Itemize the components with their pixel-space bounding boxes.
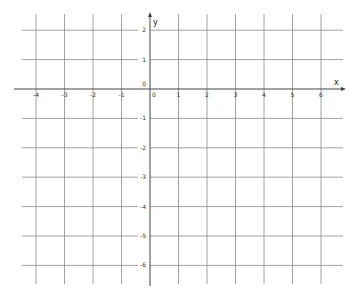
x-tick-label: 6 xyxy=(319,91,323,98)
x-tick-label: 1 xyxy=(177,91,181,98)
x-tick-labels: -4-3-2-10123456 xyxy=(33,91,323,98)
x-axis-label: x xyxy=(334,78,339,87)
x-tick-label: -4 xyxy=(33,91,39,98)
y-tick-labels: 210-1-2-3-4-5-6 xyxy=(140,26,146,268)
y-tick-label: -4 xyxy=(140,203,146,210)
y-tick-label: 2 xyxy=(142,26,146,33)
y-axis-label: y xyxy=(153,18,158,27)
x-axis-arrow-icon xyxy=(341,87,346,91)
y-axis-arrow-icon xyxy=(148,12,152,17)
y-tick-label: -2 xyxy=(140,144,146,151)
x-tick-label: 3 xyxy=(234,91,238,98)
coordinate-grid: x y -4-3-2-10123456 210-1-2-3-4-5-6 xyxy=(0,0,359,300)
x-tick-label: 5 xyxy=(291,91,295,98)
x-tick-label: 4 xyxy=(262,91,266,98)
y-tick-label: -5 xyxy=(140,232,146,239)
y-tick-label: -6 xyxy=(140,261,146,268)
x-tick-label: 2 xyxy=(205,91,209,98)
y-tick-label: -3 xyxy=(140,173,146,180)
y-tick-label: -1 xyxy=(140,114,146,121)
vertical-grid-lines xyxy=(36,14,321,284)
y-tick-label: 0 xyxy=(142,80,146,87)
x-tick-label: -2 xyxy=(90,91,96,98)
y-tick-label: 1 xyxy=(142,56,146,63)
x-tick-label: 0 xyxy=(152,91,156,98)
x-tick-label: -3 xyxy=(62,91,68,98)
horizontal-grid-lines xyxy=(22,30,343,265)
x-tick-label: -1 xyxy=(119,91,125,98)
axes: x y xyxy=(14,12,346,286)
